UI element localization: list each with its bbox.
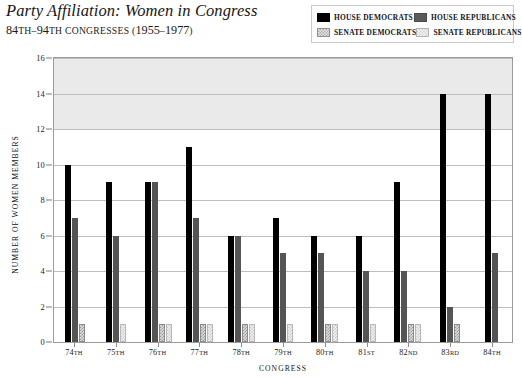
bar-house-democrats-80th[interactable] xyxy=(311,236,317,343)
bar-group-74th xyxy=(54,58,96,342)
x-tick-label-83rd: 83RD xyxy=(429,348,471,357)
bar-house-republicans-80th[interactable] xyxy=(318,253,324,342)
bar-senate-republicans-76th[interactable] xyxy=(166,324,172,342)
x-label-ordinal: TH xyxy=(241,349,250,356)
bar-house-republicans-77th[interactable] xyxy=(193,218,199,342)
bar-house-democrats-81st[interactable] xyxy=(356,236,362,343)
bar-house-democrats-82nd[interactable] xyxy=(394,182,400,342)
legend-item-house-republicans[interactable]: HOUSE REPUBLICANS xyxy=(414,13,509,22)
legend-item-senate-republicans[interactable]: SENATE REPUBLICANS xyxy=(416,28,511,37)
bar-house-republicans-84th[interactable] xyxy=(492,253,498,342)
bar-group-79th xyxy=(262,58,304,342)
legend-row-2: SENATE DEMOCRATS SENATE REPUBLICANS xyxy=(317,25,509,40)
legend-swatch-house-republicans xyxy=(414,13,427,22)
x-tick-label-76th: 76TH xyxy=(137,348,179,357)
x-label-ordinal: TH xyxy=(325,349,334,356)
bar-house-republicans-79th[interactable] xyxy=(280,253,286,342)
chart-subtitle: 84TH–94TH CONGRESSES (1955–1977) xyxy=(6,22,257,39)
legend-item-house-democrats[interactable]: HOUSE DEMOCRATS xyxy=(317,13,414,22)
x-tick-mark-77th xyxy=(178,343,220,347)
x-tick-mark-81st xyxy=(346,343,388,347)
bar-group-83rd xyxy=(429,58,471,342)
bar-house-democrats-74th[interactable] xyxy=(65,165,71,343)
x-tick-label-82nd: 82ND xyxy=(388,348,430,357)
legend-item-senate-democrats[interactable]: SENATE DEMOCRATS xyxy=(317,28,416,37)
bar-group-81st xyxy=(345,58,387,342)
x-tick-mark-74th xyxy=(53,343,95,347)
y-tick-label-8: 8 xyxy=(41,196,45,205)
y-tick-mark-16 xyxy=(46,58,52,59)
y-tick-mark-6 xyxy=(46,235,52,236)
bar-house-republicans-74th[interactable] xyxy=(72,218,78,342)
bar-house-republicans-83rd[interactable] xyxy=(447,307,453,343)
x-label-ordinal: TH xyxy=(199,349,208,356)
subtitle-part: ) xyxy=(189,25,193,36)
x-label-ordinal: TH xyxy=(283,349,292,356)
subtitle-part: 94 xyxy=(37,23,49,37)
x-axis-title: CONGRESS xyxy=(53,364,513,373)
x-label-number: 81 xyxy=(358,348,367,357)
y-tick-mark-10 xyxy=(46,164,52,165)
bar-group-80th xyxy=(304,58,346,342)
x-label-number: 82 xyxy=(399,348,408,357)
bar-house-republicans-75th[interactable] xyxy=(113,236,119,343)
y-tick-mark-14 xyxy=(46,93,52,94)
y-tick-mark-4 xyxy=(46,271,52,272)
x-tick-label-78th: 78TH xyxy=(220,348,262,357)
bar-senate-republicans-82nd[interactable] xyxy=(415,324,421,342)
bar-house-republicans-81st[interactable] xyxy=(363,271,369,342)
x-label-ordinal: ND xyxy=(408,349,418,356)
bar-group-75th xyxy=(96,58,138,342)
bar-senate-republicans-75th[interactable] xyxy=(120,324,126,342)
chart-legend: HOUSE DEMOCRATS HOUSE REPUBLICANS SENATE… xyxy=(311,5,514,43)
x-tick-labels: 74TH75TH76TH77TH78TH79TH80TH81ST82ND83RD… xyxy=(53,348,513,357)
bar-house-democrats-78th[interactable] xyxy=(228,236,234,343)
bar-house-democrats-79th[interactable] xyxy=(273,218,279,342)
subtitle-part: 1977 xyxy=(165,23,189,37)
bar-senate-republicans-80th[interactable] xyxy=(332,324,338,342)
bar-senate-democrats-78th[interactable] xyxy=(242,324,248,342)
x-tick-mark-75th xyxy=(95,343,137,347)
bar-senate-democrats-77th[interactable] xyxy=(200,324,206,342)
x-tick-label-81st: 81ST xyxy=(346,348,388,357)
x-label-ordinal: TH xyxy=(157,349,166,356)
x-tick-mark-82nd xyxy=(388,343,430,347)
bar-senate-democrats-82nd[interactable] xyxy=(408,324,414,342)
bar-house-democrats-76th[interactable] xyxy=(145,182,151,342)
legend-label-senate-republicans: SENATE REPUBLICANS xyxy=(433,28,521,37)
x-label-number: 77 xyxy=(191,348,200,357)
x-axis: 74TH75TH76TH77TH78TH79TH80TH81ST82ND83RD… xyxy=(53,343,513,378)
x-tick-label-79th: 79TH xyxy=(262,348,304,357)
y-tick-label-2: 2 xyxy=(41,302,45,311)
x-tick-label-80th: 80TH xyxy=(304,348,346,357)
y-tick-label-12: 12 xyxy=(36,125,45,134)
bar-group-78th xyxy=(221,58,263,342)
x-label-number: 80 xyxy=(316,348,325,357)
bar-senate-democrats-83rd[interactable] xyxy=(454,324,460,342)
bar-senate-republicans-79th[interactable] xyxy=(287,324,293,342)
bar-groups xyxy=(54,58,512,342)
bar-house-democrats-77th[interactable] xyxy=(186,147,192,342)
legend-swatch-senate-republicans xyxy=(416,28,429,37)
bar-senate-republicans-81st[interactable] xyxy=(370,324,376,342)
bar-house-republicans-76th[interactable] xyxy=(152,182,158,342)
bar-senate-republicans-78th[interactable] xyxy=(249,324,255,342)
y-tick-mark-0 xyxy=(46,342,52,343)
bar-senate-democrats-76th[interactable] xyxy=(159,324,165,342)
x-label-number: 83 xyxy=(441,348,450,357)
bar-senate-democrats-80th[interactable] xyxy=(325,324,331,342)
y-tick-label-14: 14 xyxy=(36,89,45,98)
bar-senate-republicans-77th[interactable] xyxy=(207,324,213,342)
x-label-number: 79 xyxy=(274,348,283,357)
bar-house-republicans-78th[interactable] xyxy=(235,236,241,343)
bar-house-democrats-83rd[interactable] xyxy=(440,94,446,343)
bar-senate-democrats-74th[interactable] xyxy=(79,324,85,342)
bar-house-republicans-82nd[interactable] xyxy=(401,271,407,342)
y-tick-label-6: 6 xyxy=(41,231,45,240)
y-tick-label-10: 10 xyxy=(36,160,45,169)
x-tick-mark-79th xyxy=(262,343,304,347)
x-label-number: 78 xyxy=(232,348,241,357)
plot-area xyxy=(53,57,513,343)
bar-house-democrats-75th[interactable] xyxy=(106,182,112,342)
bar-house-democrats-84th[interactable] xyxy=(485,94,491,343)
